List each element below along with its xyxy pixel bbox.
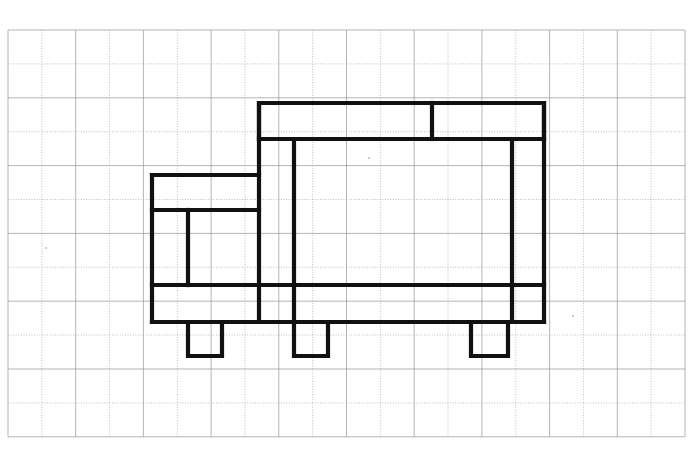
graph-paper-sheet (0, 0, 694, 449)
pencil-speck-icon (45, 247, 47, 249)
pencil-speck-icon (572, 315, 574, 317)
screenshot-canvas (0, 0, 694, 449)
pencil-speck-icon (368, 157, 370, 159)
paper-background (0, 0, 694, 449)
